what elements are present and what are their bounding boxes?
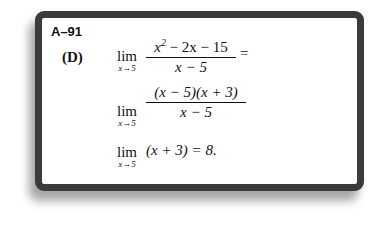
lim-subscript: x→5 <box>112 119 142 128</box>
lim-text: lim <box>112 145 142 160</box>
denominator: x − 5 <box>146 104 246 121</box>
limit-operator: lim x→5 <box>112 104 142 128</box>
answer-card: A–91 (D) lim x→5 x2 − 2x − 15 x − 5 = li… <box>35 11 364 191</box>
denominator: x − 5 <box>146 59 236 76</box>
lim-text: lim <box>112 49 142 64</box>
lim-text: lim <box>112 104 142 119</box>
numerator: x2 − 2x − 15 <box>146 34 236 56</box>
lim-subscript: x→5 <box>112 160 142 169</box>
fraction-bar <box>146 102 246 103</box>
fraction-1: x2 − 2x − 15 x − 5 <box>146 34 236 76</box>
answer-option: (D) <box>62 49 83 66</box>
fraction-2: (x − 5)(x + 3) x − 5 <box>146 84 246 121</box>
limit-operator: lim x→5 <box>112 49 142 73</box>
fraction-bar <box>146 57 236 58</box>
numerator: (x − 5)(x + 3) <box>146 84 246 101</box>
result-expression: (x + 3) = 8. <box>146 142 217 159</box>
lim-subscript: x→5 <box>112 64 142 73</box>
equals-sign: = <box>240 45 248 62</box>
problem-id: A–91 <box>51 24 82 39</box>
limit-operator: lim x→5 <box>112 145 142 169</box>
